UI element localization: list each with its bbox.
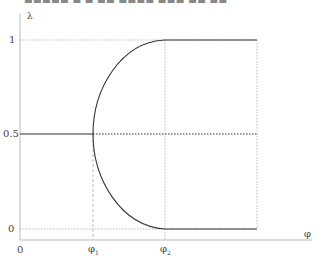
phi2-symbol: φ: [160, 243, 167, 254]
y-tick-0-5: 0.5: [3, 129, 19, 139]
series-upper-branch: [93, 40, 257, 134]
y-axis-label: λ: [27, 12, 33, 21]
bifurcation-chart: [0, 0, 319, 256]
x-axis-label: φ: [304, 229, 311, 239]
y-tick-1: 1: [9, 35, 15, 45]
x-tick-phi2: φ2: [160, 244, 171, 256]
phi1-symbol: φ: [88, 243, 95, 254]
phi1-subscript: 1: [95, 249, 99, 256]
y-tick-0: 0: [8, 224, 14, 234]
x-tick-phi1: φ1: [88, 244, 99, 256]
x-tick-0: 0: [17, 245, 23, 255]
series-lower-branch: [93, 134, 257, 229]
phi2-subscript: 2: [167, 249, 171, 256]
